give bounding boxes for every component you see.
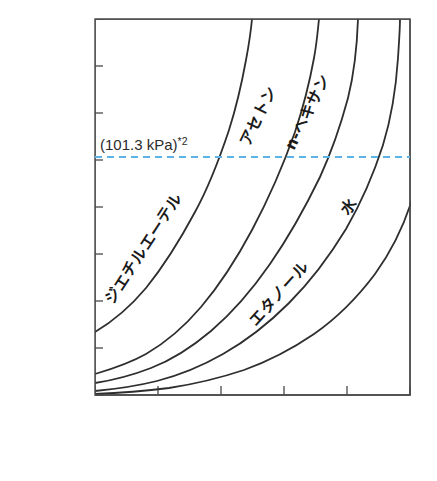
reference-line-label: (101.3 kPa)*2	[100, 135, 188, 153]
reference-label-text: (101.3 kPa)	[100, 136, 178, 153]
clip-left	[0, 0, 95, 481]
plot-area-background	[95, 19, 410, 395]
reference-label-superscript: *2	[178, 135, 188, 147]
vapor-pressure-figure: 160 140 120 100 80 60 40 20 0 273 293 31…	[0, 0, 437, 481]
vapor-pressure-chart: 160 140 120 100 80 60 40 20 0 273 293 31…	[0, 0, 437, 481]
